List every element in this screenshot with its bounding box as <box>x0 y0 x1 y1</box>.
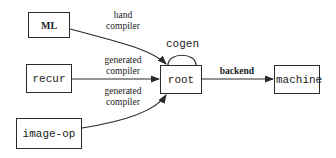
node-ml-label: ML <box>41 20 57 31</box>
node-recur: recur <box>26 64 72 93</box>
node-root-label: root <box>168 74 194 86</box>
edge-label-recur-root: generated compiler <box>95 55 151 77</box>
edge-label-imageop-root: generated compiler <box>95 86 151 108</box>
edge-label-line: compiler <box>95 97 151 108</box>
edge-root-self-cogen <box>168 55 196 65</box>
edge-label-line: generated <box>95 55 151 66</box>
edge-label-backend: backend <box>212 66 262 77</box>
edge-label-line: compiler <box>98 21 148 32</box>
edge-label-line: generated <box>95 86 151 97</box>
node-image-op-label: image-op <box>23 128 76 140</box>
edge-label-line: hand <box>98 10 148 21</box>
node-machine: machine <box>274 65 320 94</box>
node-image-op: image-op <box>16 118 82 149</box>
edge-label-ml-root: hand compiler <box>98 10 148 32</box>
edge-label-cogen: cogen <box>166 38 199 50</box>
compiler-diagram: ML recur image-op root machine hand comp… <box>0 0 336 158</box>
edge-label-line: compiler <box>95 66 151 77</box>
node-recur-label: recur <box>32 73 65 85</box>
node-root: root <box>160 65 202 94</box>
node-ml: ML <box>28 12 70 38</box>
node-machine-label: machine <box>276 74 322 86</box>
